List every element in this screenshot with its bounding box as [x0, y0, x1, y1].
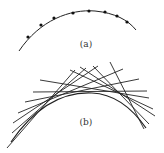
sample-point [125, 20, 128, 23]
tangent-line [33, 91, 147, 92]
curve-a [19, 11, 136, 51]
panel-b: (b) [7, 62, 155, 148]
sample-point [52, 16, 55, 19]
figure-canvas: (a) (b) [0, 0, 164, 153]
sample-point [103, 10, 106, 13]
tangent-line [70, 70, 153, 109]
sample-point [71, 11, 74, 14]
sample-point [87, 9, 90, 12]
panel-b-label: (b) [80, 117, 93, 127]
tangent-line [25, 79, 139, 102]
sample-point [115, 14, 118, 17]
tangent-line [13, 66, 98, 123]
panel-a-label: (a) [80, 39, 92, 49]
tangent-lines [7, 62, 155, 148]
sample-points [26, 9, 128, 38]
sample-point [26, 35, 29, 38]
panel-a: (a) [19, 9, 136, 51]
sample-point [39, 23, 42, 26]
tangent-line [12, 68, 86, 133]
tangent-line [93, 66, 149, 124]
